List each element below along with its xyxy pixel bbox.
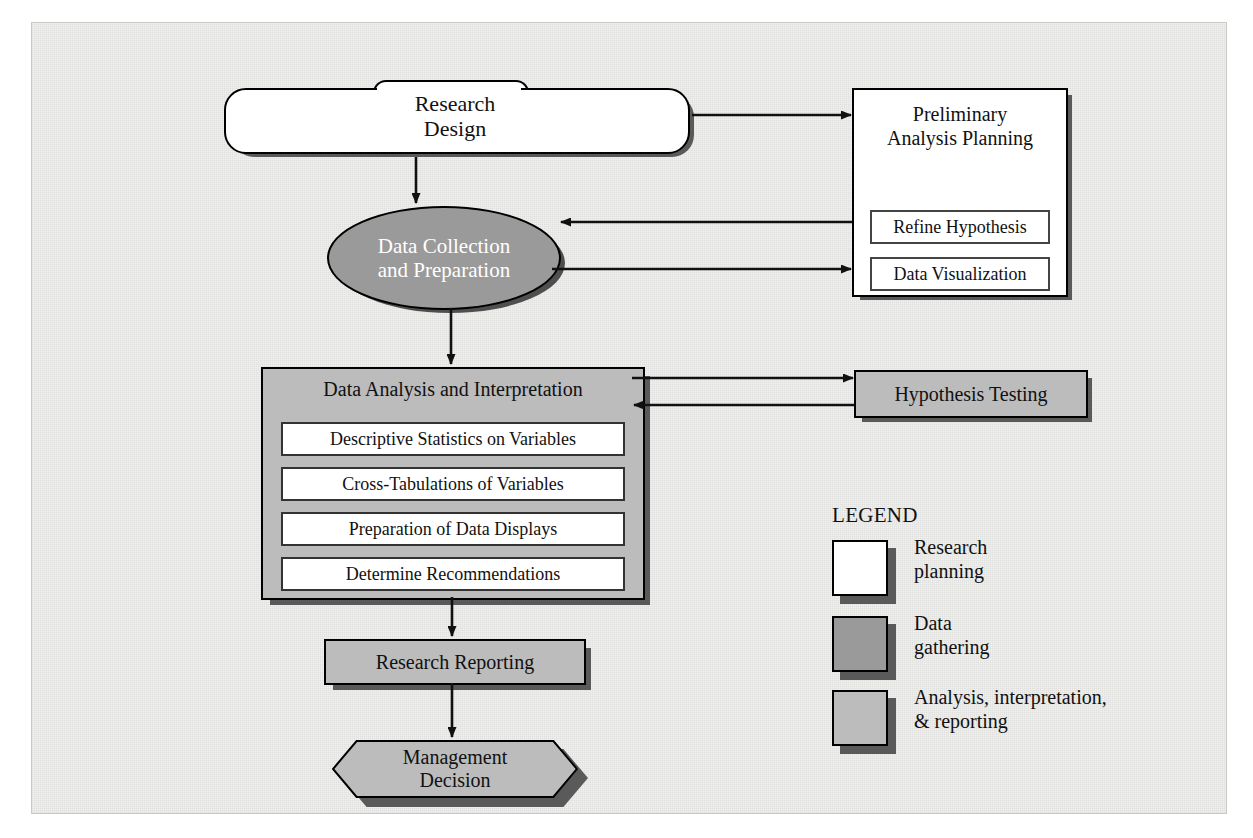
- data-collection-node[interactable]: Data Collection and Preparation: [327, 206, 561, 310]
- management-decision-node[interactable]: Management Decision: [332, 740, 578, 798]
- data-analysis-node[interactable]: Data Analysis and Interpretation Descrip…: [261, 367, 645, 600]
- diagram-canvas: Research Design Data Collection and Prep…: [31, 22, 1227, 814]
- recommendations-subnode[interactable]: Determine Recommendations: [281, 557, 625, 591]
- cross-tabulations-subnode[interactable]: Cross-Tabulations of Variables: [281, 467, 625, 501]
- legend-item-data-gathering: Data gathering: [832, 616, 1102, 678]
- data-visualization-subnode[interactable]: Data Visualization: [870, 257, 1050, 291]
- legend-item-analysis-reporting: Analysis, interpretation, & reporting: [832, 690, 1102, 752]
- legend-label-analysis-reporting: Analysis, interpretation, & reporting: [914, 686, 1114, 733]
- data-displays-subnode[interactable]: Preparation of Data Displays: [281, 512, 625, 546]
- legend-item-research-planning: Research planning: [832, 540, 1102, 602]
- legend-swatch-data-gathering: [832, 616, 888, 672]
- hypothesis-testing-node[interactable]: Hypothesis Testing: [854, 370, 1088, 418]
- legend-swatch-analysis-reporting: [832, 690, 888, 746]
- legend-title: LEGEND: [832, 503, 918, 528]
- legend-swatch-research-planning: [832, 540, 888, 596]
- descriptive-statistics-subnode[interactable]: Descriptive Statistics on Variables: [281, 422, 625, 456]
- preliminary-analysis-node[interactable]: Preliminary Analysis Planning Refine Hyp…: [852, 88, 1068, 297]
- legend-label-research-planning: Research planning: [914, 536, 1114, 583]
- research-design-label: Research Design: [224, 84, 686, 150]
- research-reporting-node[interactable]: Research Reporting: [324, 639, 586, 685]
- legend: LEGEND Research planning Data gathering …: [800, 478, 1100, 718]
- refine-hypothesis-subnode[interactable]: Refine Hypothesis: [870, 210, 1050, 244]
- data-analysis-label: Data Analysis and Interpretation: [263, 378, 643, 401]
- preliminary-analysis-label: Preliminary Analysis Planning: [854, 102, 1066, 150]
- legend-label-data-gathering: Data gathering: [914, 612, 1114, 659]
